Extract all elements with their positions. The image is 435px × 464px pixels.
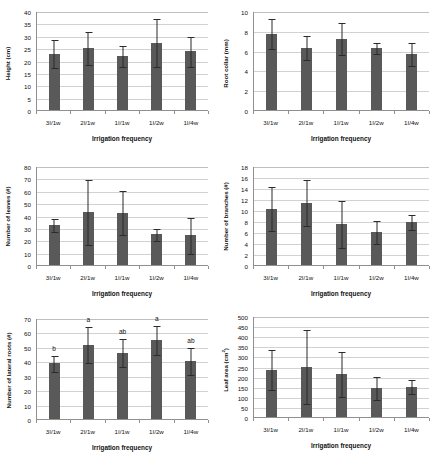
x-axis-tick-label: 3I/1w — [253, 426, 288, 433]
plot-area — [253, 167, 429, 266]
x-axis-tick-mark — [429, 266, 430, 269]
error-bar-cap-upper — [409, 215, 416, 216]
y-axis-tick-label: 40 — [24, 213, 31, 220]
x-axis-tick-label: 2I/1w — [70, 119, 104, 126]
bar-group — [324, 167, 359, 265]
error-bar-cap-lower — [85, 245, 92, 246]
error-bar-cap-upper — [154, 229, 161, 230]
x-axis-title: Irrigation frequency — [36, 135, 208, 142]
error-bar — [54, 40, 55, 69]
error-bar-cap-upper — [188, 37, 195, 38]
error-bar-cap-upper — [154, 19, 161, 20]
x-axis-tick-mark — [394, 418, 395, 421]
chart-panel-bottom-left: Number of lateral roots (#)0102030405060… — [0, 305, 217, 464]
x-axis-tick-mark — [36, 111, 37, 114]
bar-group: a — [140, 319, 174, 419]
x-axis-tick-mark — [208, 111, 209, 114]
bar-series — [37, 12, 208, 110]
error-bar-cap-lower — [188, 67, 195, 68]
y-axis-tick-label: 150 — [238, 384, 248, 391]
x-axis-tick-label: 2I/1w — [288, 426, 323, 433]
y-axis-tick-label: 20 — [24, 58, 31, 65]
x-axis-tick-mark — [139, 266, 140, 269]
bar-group — [394, 12, 429, 110]
x-axis-tick-mark — [105, 266, 106, 269]
error-bar — [306, 36, 307, 62]
y-axis-tick-label: 30 — [24, 373, 31, 380]
x-axis-tick-label: 1I/2w — [139, 119, 173, 126]
y-axis-tick-label: 0 — [245, 263, 248, 270]
significance-letter: b — [52, 345, 56, 352]
error-bar — [122, 46, 123, 68]
y-axis-tick-label: 10 — [241, 208, 248, 215]
x-axis-tick-mark — [323, 111, 324, 114]
x-axis-tick-mark — [323, 266, 324, 269]
bar-group — [71, 12, 105, 110]
x-axis-tick-label: 3I/1w — [36, 119, 70, 126]
bar-group — [324, 12, 359, 110]
error-bar — [411, 380, 412, 395]
y-axis-tick-label: 70 — [24, 176, 31, 183]
x-axis-title: Irrigation frequency — [253, 442, 429, 449]
bar-group — [140, 167, 174, 265]
error-bar-cap-upper — [374, 221, 381, 222]
x-axis-tick-label: 3I/1w — [253, 119, 288, 126]
error-bar-cap-lower — [304, 60, 311, 61]
x-axis-title: Irrigation frequency — [36, 290, 208, 297]
error-bar — [156, 326, 157, 356]
y-axis-tick-labels: 0246810 — [230, 12, 250, 111]
y-axis-tick-label: 60 — [24, 330, 31, 337]
error-bar-cap-lower — [85, 65, 92, 66]
bar-group — [289, 317, 324, 417]
y-axis-tick-labels: 0510152025303540 — [13, 12, 33, 111]
error-bar — [88, 327, 89, 365]
error-bar-cap-lower — [339, 55, 346, 56]
error-bar-cap-lower — [374, 54, 381, 55]
bar-group — [254, 12, 289, 110]
error-bar-cap-lower — [339, 248, 346, 249]
error-bar-cap-upper — [120, 191, 127, 192]
y-axis-tick-label: 50 — [241, 404, 248, 411]
error-bar-cap-upper — [188, 218, 195, 219]
error-bar-cap-lower — [154, 355, 161, 356]
x-axis-tick-label: 1I/2w — [359, 274, 394, 281]
bar-group — [394, 317, 429, 417]
y-axis-tick-label: 50 — [24, 344, 31, 351]
error-bar-cap-upper — [51, 356, 58, 357]
y-axis-tick-label: 50 — [24, 201, 31, 208]
x-axis-tick-mark — [288, 266, 289, 269]
error-bar — [376, 221, 377, 244]
error-bar-cap-upper — [120, 46, 127, 47]
error-bar — [341, 23, 342, 56]
x-axis-tick-mark — [288, 111, 289, 114]
x-axis-tick-mark — [253, 266, 254, 269]
error-bar-cap-lower — [120, 367, 127, 368]
error-bar — [376, 43, 377, 55]
bar-group — [140, 12, 174, 110]
error-bar-cap-lower — [339, 397, 346, 398]
y-axis-tick-label: 30 — [24, 225, 31, 232]
x-axis-tick-mark — [429, 111, 430, 114]
error-bar — [122, 339, 123, 368]
plot-area — [253, 317, 429, 418]
error-bar-cap-upper — [85, 327, 92, 328]
y-axis-tick-label: 4 — [245, 68, 248, 75]
x-axis-tick-mark — [70, 420, 71, 423]
y-axis-tick-label: 200 — [238, 374, 248, 381]
x-axis-tick-labels: 3I/1w2I/1w1I/1w1I/2w1I/4w — [36, 119, 208, 126]
x-axis-tick-label: 2I/1w — [70, 274, 104, 281]
y-axis-tick-label: 15 — [24, 70, 31, 77]
bar-group — [37, 167, 71, 265]
x-axis-tick-label: 1I/4w — [394, 274, 429, 281]
bar-series — [254, 317, 429, 417]
x-axis-tick-label: 1I/4w — [174, 428, 208, 435]
error-bar-cap-lower — [51, 372, 58, 373]
error-bar-cap-lower — [51, 232, 58, 233]
y-axis-tick-label: 300 — [238, 354, 248, 361]
chart-panel-middle-left: Number of leaves (#)010203040506070803I/… — [0, 155, 217, 305]
x-axis-tick-mark — [323, 418, 324, 421]
y-axis-tick-label: 12 — [241, 197, 248, 204]
x-axis-tick-labels: 3I/1w2I/1w1I/1w1I/2w1I/4w — [36, 274, 208, 281]
error-bar — [271, 19, 272, 50]
y-axis-tick-labels: 050100150200250300350400450500 — [230, 317, 250, 418]
